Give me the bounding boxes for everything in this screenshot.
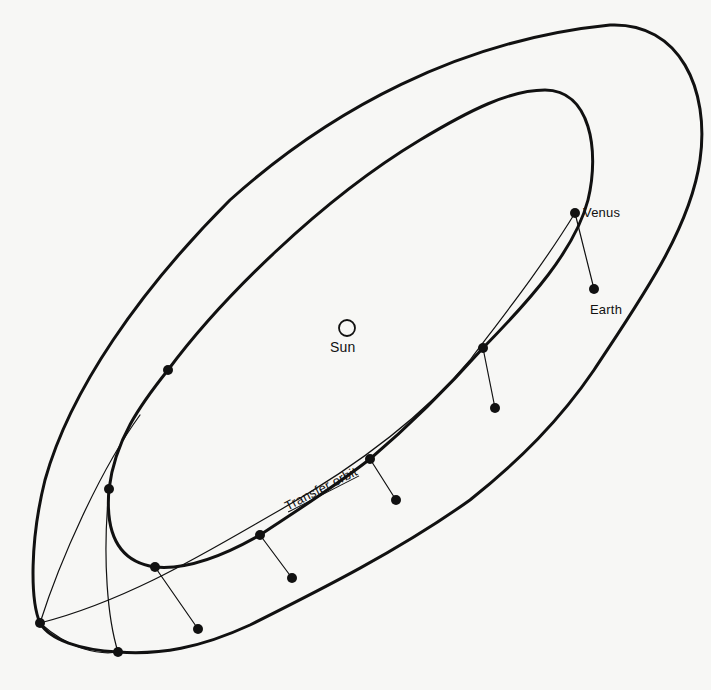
sun-label: Sun [330, 339, 356, 355]
sun-icon [339, 320, 355, 336]
transfer-orbit [40, 213, 575, 623]
earth-dot [589, 284, 599, 294]
venus-orbit [108, 90, 592, 567]
transfer-orbit-lower-arc [40, 623, 118, 653]
earth-label: Earth [590, 302, 622, 317]
venus-label: Venus [583, 205, 620, 220]
venus-dot [570, 208, 580, 218]
hohmann-transfer-diagram: Venus Earth Sun Transfer orbit [0, 0, 711, 690]
position-chords [106, 213, 594, 652]
